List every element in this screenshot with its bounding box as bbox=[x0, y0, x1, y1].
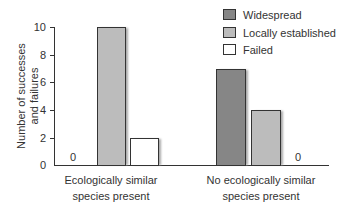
category-label-line: No ecologically similar bbox=[186, 172, 336, 188]
category-label-no-similar: No ecologically similar species present bbox=[186, 172, 336, 204]
legend-label-locally-established: Locally established bbox=[243, 27, 336, 39]
category-label-line: Ecologically similar bbox=[36, 172, 186, 188]
y-axis bbox=[54, 27, 55, 165]
legend-swatch-locally-established bbox=[223, 27, 236, 38]
y-axis-label: Number of successes and failures bbox=[15, 26, 41, 166]
zero-annotation-failed: 0 bbox=[288, 151, 308, 163]
bar-locally-established-similar bbox=[97, 27, 126, 166]
y-tick bbox=[50, 138, 54, 139]
category-label-line: species present bbox=[36, 188, 186, 204]
legend-label-widespread: Widespread bbox=[243, 9, 302, 21]
y-tick bbox=[50, 82, 54, 83]
y-axis-label-line: Number of successes bbox=[15, 26, 28, 166]
bar-failed-similar bbox=[130, 138, 159, 166]
category-label-similar: Ecologically similar species present bbox=[36, 172, 186, 204]
legend-swatch-failed bbox=[223, 44, 236, 55]
legend-swatch-widespread bbox=[223, 9, 236, 20]
y-tick bbox=[50, 55, 54, 56]
x-axis bbox=[54, 165, 329, 166]
bar-widespread-no-similar bbox=[216, 69, 246, 166]
y-tick bbox=[50, 27, 54, 28]
category-label-line: species present bbox=[186, 188, 336, 204]
y-axis-label-line: and failures bbox=[28, 26, 41, 166]
bar-locally-established-no-similar bbox=[251, 110, 281, 166]
zero-annotation-widespread: 0 bbox=[63, 151, 83, 163]
y-tick bbox=[50, 110, 54, 111]
legend-label-failed: Failed bbox=[243, 44, 273, 56]
